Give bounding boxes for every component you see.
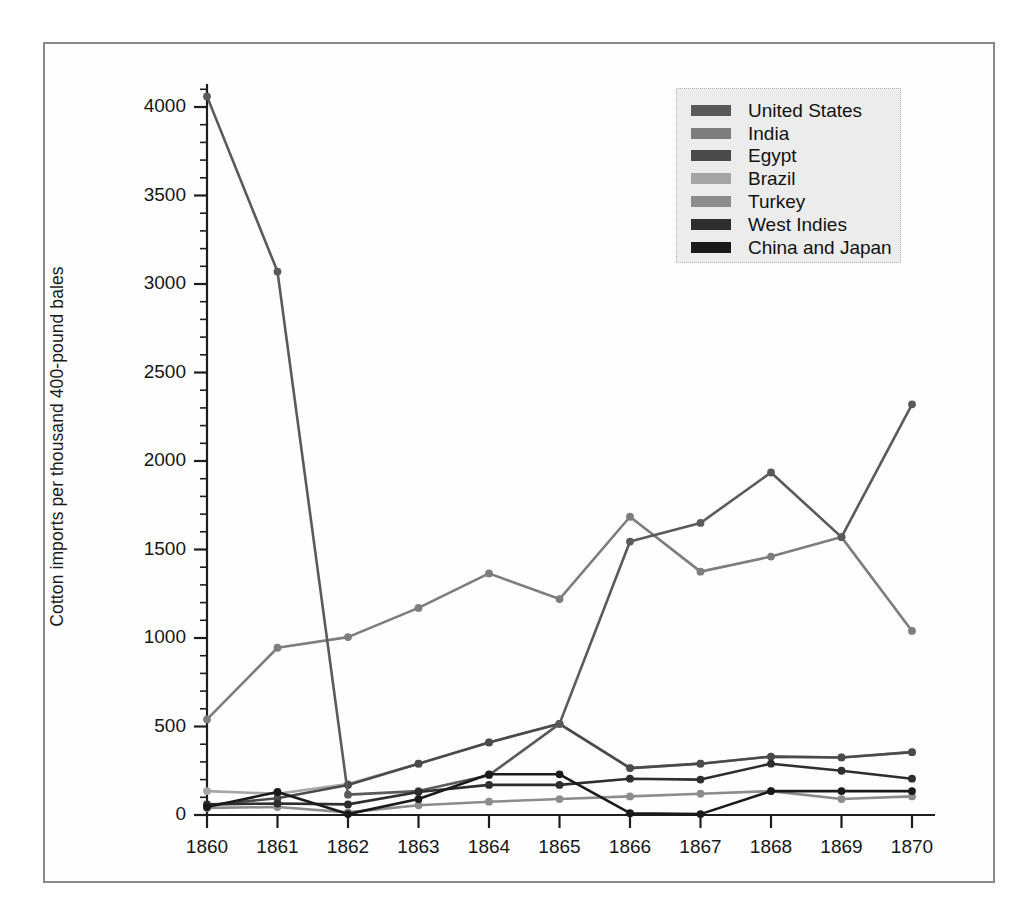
data-point	[838, 767, 846, 775]
data-point	[485, 739, 493, 747]
x-tick-label: 1864	[449, 836, 529, 858]
data-point	[908, 627, 916, 635]
legend-item-united-states[interactable]: United States	[691, 99, 900, 122]
data-point	[697, 810, 705, 818]
data-point	[415, 795, 423, 803]
data-point	[556, 595, 564, 603]
y-tick-label: 1500	[116, 538, 186, 560]
x-tick-label: 1869	[802, 836, 882, 858]
x-tick-label: 1867	[661, 836, 741, 858]
legend-swatch-icon	[691, 128, 731, 139]
x-tick-label: 1866	[590, 836, 670, 858]
data-point	[626, 809, 634, 817]
data-point	[485, 569, 493, 577]
legend-label: Brazil	[748, 169, 796, 188]
data-point	[203, 92, 211, 100]
data-point	[415, 760, 423, 768]
legend-swatch-icon	[691, 150, 731, 161]
y-tick-label: 4000	[116, 95, 186, 117]
data-point	[626, 793, 634, 801]
data-point	[344, 810, 352, 818]
y-tick-label: 1000	[116, 626, 186, 648]
data-point	[697, 519, 705, 527]
legend-item-brazil[interactable]: Brazil	[691, 167, 900, 190]
data-point	[767, 469, 775, 477]
series-india	[203, 513, 916, 723]
data-point	[274, 788, 282, 796]
data-point	[626, 513, 634, 521]
data-point	[203, 716, 211, 724]
data-point	[203, 787, 211, 795]
y-tick-label: 2000	[116, 449, 186, 471]
data-point	[485, 770, 493, 778]
data-point	[556, 770, 564, 778]
data-point	[767, 753, 775, 761]
data-point	[274, 644, 282, 652]
y-tick-label: 2500	[116, 361, 186, 383]
data-point	[415, 788, 423, 796]
legend-item-egypt[interactable]: Egypt	[691, 145, 900, 168]
data-point	[274, 800, 282, 808]
data-point	[626, 764, 634, 772]
x-tick-label: 1861	[238, 836, 318, 858]
data-point	[908, 787, 916, 795]
legend-item-india[interactable]: India	[691, 122, 900, 145]
data-point	[626, 538, 634, 546]
series-line	[207, 517, 912, 720]
x-tick-label: 1870	[872, 836, 952, 858]
legend-item-turkey[interactable]: Turkey	[691, 190, 900, 213]
legend-label: Turkey	[748, 192, 805, 211]
legend-swatch-icon	[691, 219, 731, 230]
legend-swatch-icon	[691, 105, 731, 116]
y-tick-label: 0	[116, 803, 186, 825]
legend-item-china-and-japan[interactable]: China and Japan	[691, 236, 900, 259]
legend-swatch-icon	[691, 242, 731, 253]
data-point	[908, 775, 916, 783]
y-tick-label: 3500	[116, 184, 186, 206]
data-point	[838, 754, 846, 762]
data-point	[274, 268, 282, 276]
data-point	[344, 800, 352, 808]
legend-swatch-icon	[691, 196, 731, 207]
data-point	[344, 791, 352, 799]
data-point	[697, 568, 705, 576]
data-point	[767, 760, 775, 768]
data-point	[697, 760, 705, 768]
chart-legend: United StatesIndiaEgyptBrazilTurkeyWest …	[676, 88, 901, 263]
data-point	[767, 787, 775, 795]
legend-item-west-indies[interactable]: West Indies	[691, 213, 900, 236]
series-line	[207, 724, 912, 805]
data-point	[556, 795, 564, 803]
data-point	[485, 781, 493, 789]
legend-swatch-icon	[691, 173, 731, 184]
data-point	[556, 720, 564, 728]
y-tick-label: 3000	[116, 272, 186, 294]
data-point	[203, 803, 211, 811]
x-tick-label: 1862	[308, 836, 388, 858]
data-point	[485, 798, 493, 806]
data-point	[344, 633, 352, 641]
data-point	[415, 604, 423, 612]
data-point	[626, 775, 634, 783]
data-point	[908, 400, 916, 408]
data-point	[767, 553, 775, 561]
x-tick-label: 1863	[379, 836, 459, 858]
x-tick-label: 1868	[731, 836, 811, 858]
legend-label: Egypt	[748, 146, 797, 165]
legend-label: China and Japan	[748, 238, 892, 257]
chart-figure: Cotton imports per thousand 400-pound ba…	[0, 0, 1027, 918]
x-tick-label: 1865	[520, 836, 600, 858]
x-tick-label: 1860	[167, 836, 247, 858]
data-point	[697, 790, 705, 798]
legend-label: West Indies	[748, 215, 847, 234]
data-point	[556, 781, 564, 789]
legend-label: United States	[748, 101, 862, 120]
data-point	[838, 533, 846, 541]
data-point	[838, 795, 846, 803]
y-tick-label: 500	[116, 715, 186, 737]
data-point	[697, 776, 705, 784]
data-point	[908, 748, 916, 756]
legend-label: India	[748, 124, 789, 143]
data-point	[838, 787, 846, 795]
